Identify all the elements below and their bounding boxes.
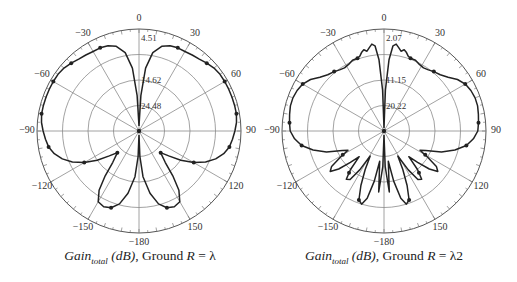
data-marker [69,61,73,65]
angle-tick [80,47,81,49]
angle-label: −120 [277,180,298,191]
caption-unit: (dB) [108,248,135,263]
angle-tick [55,72,57,73]
polar-charts: 0306090120150−180−150−120−90−60−304.5114… [0,0,517,282]
angle-label: 0 [137,12,142,23]
data-marker [332,70,336,74]
angle-tick [306,65,309,68]
angle-tick [433,216,435,219]
angle-tick [318,206,321,209]
angle-label: −60 [279,68,295,79]
angle-tick [188,43,190,46]
center-point [382,129,386,133]
angle-tick [349,35,350,39]
angle-tick [401,228,402,232]
grid-spoke [333,43,384,131]
caption-gain: Gain [305,248,332,263]
data-marker [288,121,292,125]
angle-label: 60 [476,68,486,79]
data-marker [223,80,227,84]
angle-label: 0 [382,12,387,23]
angle-tick [156,228,157,232]
caption-gain: Gain [64,248,91,263]
radial-label: 20.22 [386,101,406,111]
caption-eq: = λ2 [435,248,463,263]
data-marker [463,82,467,86]
angle-label: 120 [473,180,488,191]
angle-tick [47,88,49,89]
angle-tick [221,188,223,189]
caption-right: Gaintotal (dB), Ground R = λ2 [262,248,506,266]
data-marker [109,206,113,210]
angle-tick [88,216,90,219]
angle-tick [292,173,294,174]
angle-tick [312,59,314,61]
angle-tick [292,88,294,89]
angle-label: 30 [435,27,445,38]
caption-eq: = λ [195,248,216,263]
angle-tick [366,228,367,232]
angle-tick [209,201,211,203]
data-marker [409,56,413,60]
data-marker [417,171,421,175]
angle-tick [466,188,468,189]
angle-tick [173,223,174,227]
angle-tick [441,47,442,49]
angle-tick [459,65,462,68]
radial-label: 4.51 [141,33,157,43]
angle-tick [296,80,299,82]
angle-label: −180 [374,236,395,247]
grid-spoke [139,43,190,131]
caption-var: R [187,248,195,263]
angle-tick [474,88,476,89]
angle-tick [481,148,485,149]
angle-label: 150 [433,221,448,232]
angle-label: −30 [320,27,336,38]
data-marker [476,121,480,125]
grid-spoke [51,131,139,182]
data-marker [205,61,209,65]
angle-tick [341,221,342,223]
angle-tick [476,96,480,97]
angle-tick [55,188,57,189]
data-marker [357,198,361,202]
angle-tick [284,148,288,149]
grid-spoke [384,43,435,131]
polar-plot-0: 0306090120150−180−150−120−90−60−304.5114… [19,12,256,247]
angle-tick [454,201,456,203]
angle-tick [476,165,480,166]
radial-label: 11.15 [386,75,406,85]
angle-tick [96,221,97,223]
data-marker [355,56,359,60]
polar-plot-1: 0306090120150−180−150−120−90−60−302.0711… [264,12,501,247]
angle-tick [196,213,197,215]
angle-label: 30 [190,27,200,38]
angle-tick [43,165,47,166]
angle-tick [188,216,190,219]
angle-tick [104,35,105,39]
caption-left: Gaintotal (dB), Ground R = λ [18,248,262,266]
angle-tick [333,43,335,46]
angle-tick [229,173,231,174]
angle-tick [224,180,227,182]
angle-tick [209,59,211,61]
data-marker [347,171,351,175]
angle-tick [221,72,223,73]
angle-tick [366,31,367,35]
data-marker [432,70,436,74]
angle-tick [214,194,217,197]
angle-tick [47,173,49,174]
angle-tick [121,228,122,232]
data-marker [115,151,119,155]
angle-tick [441,213,442,215]
angle-label: 60 [231,68,241,79]
caption-unit: (dB) [348,248,375,263]
data-marker [82,161,86,165]
angle-tick [196,47,197,49]
angle-label: −90 [19,124,35,135]
angle-label: 120 [228,180,243,191]
angle-tick [39,148,43,149]
data-marker [176,46,180,50]
data-marker [165,206,169,210]
data-marker [192,161,196,165]
